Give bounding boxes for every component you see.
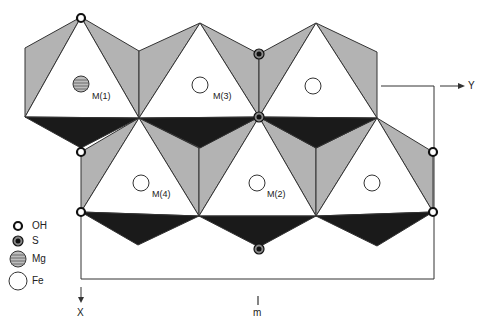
mg-atom-m1 [73,76,89,92]
octahedral-sheet-diagram [0,0,481,326]
legend-oh-label: OH [32,221,47,231]
lower-white-faces [81,117,433,216]
legend-mg-icon [10,251,26,267]
legend-oh-icon [14,222,22,230]
mirror-label: m [253,308,261,318]
fe-atom-right-upper [305,78,321,94]
y-axis-label: Y [468,81,475,91]
site-label-m2: M(2) [267,190,286,199]
lower-dark-faces [81,212,433,247]
x-axis-arrow [78,287,84,303]
legend-fe-label: Fe [32,276,44,286]
fe-atom-m2 [249,175,265,191]
upper-dark-faces [25,117,377,148]
legend-fe-icon [9,272,27,290]
x-axis-label: X [77,308,84,318]
site-label-m3: M(3) [213,92,232,101]
y-axis-arrow [440,83,465,89]
fe-atom-m3 [192,77,208,93]
fe-atom-right-lower [364,175,380,191]
legend-s-label: S [32,236,39,246]
site-label-m4: M(4) [152,190,171,199]
site-label-m1: M(1) [92,92,111,101]
fe-atom-m4 [133,175,149,191]
legend-symbols [9,222,27,290]
legend-mg-label: Mg [32,254,46,264]
